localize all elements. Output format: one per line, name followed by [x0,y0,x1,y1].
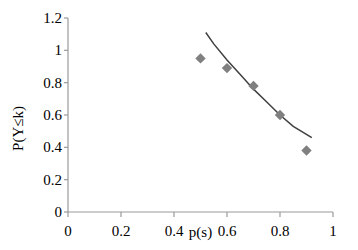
data-point-marker [301,145,311,155]
x-axis-tick-label: 1 [329,224,337,239]
x-axis-title: p(s) [189,224,212,241]
trend-line [206,33,312,138]
x-axis-tick-label: 0.8 [271,224,290,239]
data-point-marker [248,81,258,91]
x-axis-tick-label: 0.6 [218,224,237,239]
y-axis-tick-label: 1.2 [18,11,62,26]
x-axis-tick-label: 0.2 [112,224,131,239]
y-axis-tick-label: 0.2 [18,172,62,187]
y-axis-tick-label: 0 [18,205,62,220]
y-axis-title: P(Y≤k) [10,88,27,168]
x-axis-tick-label: 0 [64,224,72,239]
y-axis-tick-label: 1 [18,43,62,58]
data-point-marker [195,53,205,63]
x-axis-ticks [68,212,333,217]
data-point-markers [195,53,311,156]
x-axis-tick-label: 0.4 [165,224,184,239]
chart-container: 00.20.40.60.811.2 00.20.40.60.81 P(Y≤k) … [0,0,358,250]
